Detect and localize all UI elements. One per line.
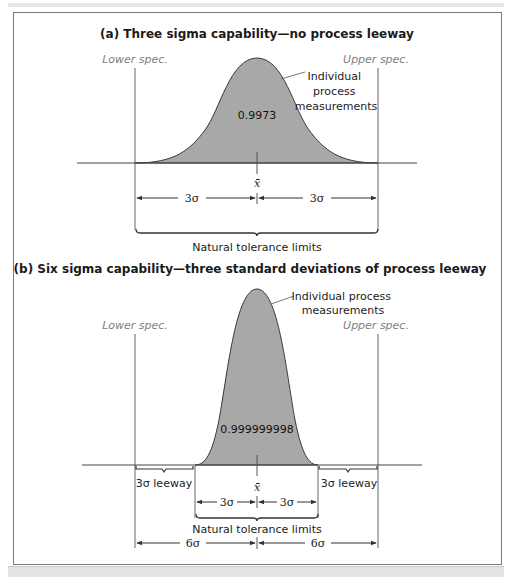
panel-b-title: (b) Six sigma capability—three standard … <box>14 262 487 276</box>
panel-b-right-leeway-label: 3σ leeway <box>321 477 378 490</box>
panel-b-right-leeway-brace <box>319 466 377 472</box>
panel-b-inner-right-span: 3σ <box>280 496 295 509</box>
panel-b-tolerance-label: Natural tolerance limits <box>192 523 322 536</box>
panel-b: (b) Six sigma capability—three standard … <box>14 262 487 550</box>
panel-a-lower-spec-label: Lower spec. <box>102 53 168 66</box>
panel-a-area-value: 0.9973 <box>238 109 277 122</box>
panel-b-upper-spec-label: Upper spec. <box>343 319 409 332</box>
panel-a-leader-line <box>281 72 305 79</box>
sigma-capability-diagram: (a) Three sigma capability—no process le… <box>0 0 509 581</box>
panel-b-left-leeway-label: 3σ leeway <box>136 477 193 490</box>
panel-b-curve-label: Individual process measurements <box>292 290 395 317</box>
panel-b-leader-line <box>271 296 294 304</box>
panel-b-lower-spec-label: Lower spec. <box>102 319 168 332</box>
panel-a-title: (a) Three sigma capability—no process le… <box>100 27 414 41</box>
panel-a-curve-label: Individual process measurements <box>295 70 378 113</box>
panel-a-upper-spec-label: Upper spec. <box>343 53 409 66</box>
panel-b-inner-left-span: 3σ <box>220 496 235 509</box>
panel-b-area-value: 0.999999998 <box>220 423 293 436</box>
panel-b-mean-symbol: x̄̄ <box>254 481 261 494</box>
panel-b-outer-right-span: 6σ <box>311 537 326 550</box>
panel-b-tolerance-brace <box>196 514 318 521</box>
panel-a-right-span: 3σ <box>310 192 325 205</box>
panel-a-left-span: 3σ <box>185 192 200 205</box>
panel-b-normal-curve <box>195 289 318 465</box>
panel-a-tolerance-brace <box>136 229 378 236</box>
panel-b-outer-left-span: 6σ <box>186 537 201 550</box>
panel-a: (a) Three sigma capability—no process le… <box>77 27 417 254</box>
panel-a-mean-symbol: x̄̄ <box>254 177 261 190</box>
panel-b-left-leeway-brace <box>136 466 193 472</box>
panel-a-tolerance-label: Natural tolerance limits <box>192 241 322 254</box>
